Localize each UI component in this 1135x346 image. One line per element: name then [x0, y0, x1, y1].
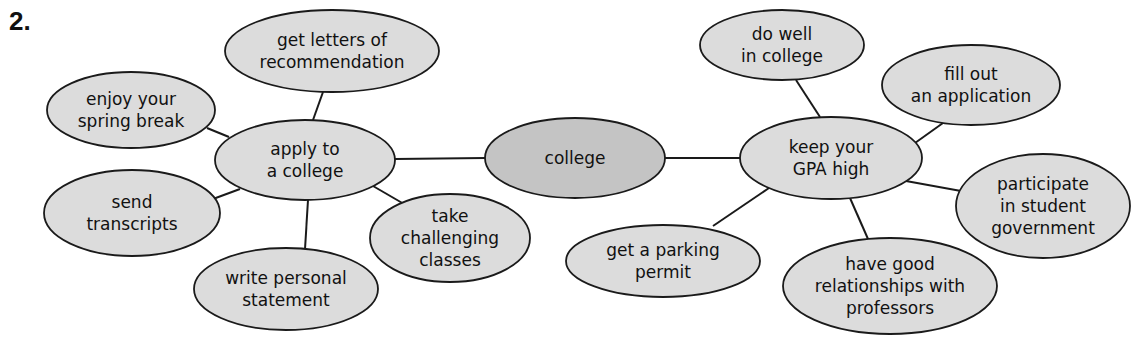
- node-label: classes: [419, 250, 481, 270]
- edge-gpa-government: [906, 181, 961, 191]
- node-label: get a parking: [606, 240, 719, 260]
- ellipse: [700, 10, 864, 80]
- node-professors: have goodrelationships withprofessors: [783, 238, 997, 334]
- node-transcripts: sendtranscripts: [44, 170, 220, 256]
- ellipse: [740, 117, 922, 199]
- edge-apply-letters: [313, 92, 323, 120]
- ellipse: [566, 225, 760, 297]
- node-label: a college: [267, 161, 344, 181]
- node-label: fill out: [944, 64, 998, 84]
- node-label: participate: [997, 174, 1089, 194]
- node-label: GPA high: [793, 159, 869, 179]
- ellipse: [882, 45, 1060, 125]
- node-label: statement: [242, 290, 330, 310]
- ellipse: [225, 10, 439, 92]
- node-label: relationships with: [815, 276, 965, 296]
- node-spring: enjoy yourspring break: [47, 72, 215, 148]
- node-label: have good: [845, 254, 935, 274]
- node-dowell: do wellin college: [700, 10, 864, 80]
- edge-apply-transcripts: [213, 189, 240, 199]
- node-label: transcripts: [86, 214, 177, 234]
- ellipse: [44, 170, 220, 256]
- concept-map: collegeapply toa collegekeep yourGPA hig…: [0, 0, 1135, 346]
- node-parking: get a parkingpermit: [566, 225, 760, 297]
- ellipse: [215, 120, 395, 200]
- node-label: get letters of: [277, 30, 388, 50]
- node-label: take: [432, 206, 469, 226]
- node-fillout: fill outan application: [882, 45, 1060, 125]
- node-label: in college: [741, 46, 823, 66]
- edge-gpa-dowell: [796, 80, 820, 117]
- node-label: keep your: [789, 137, 874, 157]
- node-government: participatein studentgovernment: [956, 154, 1130, 258]
- node-label: government: [991, 218, 1095, 238]
- node-label: spring break: [78, 111, 185, 131]
- edge-apply-classes: [373, 186, 404, 204]
- node-label: apply to: [270, 139, 339, 159]
- node-letters: get letters ofrecommendation: [225, 10, 439, 92]
- edge-college-apply: [395, 158, 485, 159]
- node-label: an application: [911, 86, 1031, 106]
- node-label: enjoy your: [86, 89, 176, 109]
- edge-gpa-professors: [850, 198, 868, 239]
- node-label: write personal: [225, 268, 347, 288]
- node-label: permit: [635, 262, 691, 282]
- edge-apply-statement: [305, 200, 308, 249]
- concept-nodes: collegeapply toa collegekeep yourGPA hig…: [44, 10, 1130, 334]
- node-label: do well: [752, 24, 812, 44]
- edge-apply-spring: [207, 128, 229, 137]
- node-college: college: [485, 118, 665, 198]
- node-label: send: [112, 192, 153, 212]
- ellipse: [194, 248, 378, 330]
- node-apply: apply toa college: [215, 120, 395, 200]
- node-label: challenging: [401, 228, 499, 248]
- node-classes: takechallengingclasses: [370, 194, 530, 282]
- node-label: recommendation: [260, 52, 405, 72]
- node-statement: write personalstatement: [194, 248, 378, 330]
- edge-gpa-fillout: [915, 123, 943, 143]
- node-label: professors: [846, 298, 934, 318]
- node-label: college: [545, 148, 606, 168]
- edge-gpa-parking: [713, 188, 769, 226]
- node-gpa: keep yourGPA high: [740, 117, 922, 199]
- ellipse: [47, 72, 215, 148]
- node-label: in student: [1000, 196, 1086, 216]
